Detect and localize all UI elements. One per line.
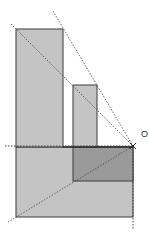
small-rectangle-shape	[73, 85, 97, 147]
tall-rectangle-shape	[16, 29, 63, 147]
perspective-diagram	[0, 0, 149, 238]
point-o-label: O	[141, 129, 148, 139]
